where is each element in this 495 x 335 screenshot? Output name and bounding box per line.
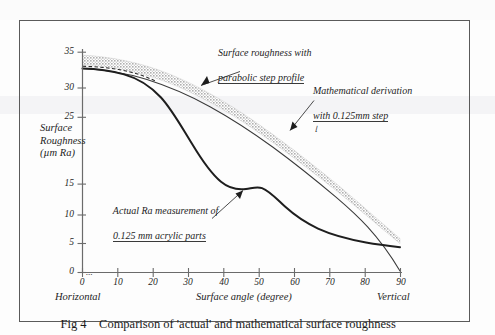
figure-caption: Fig 4 Comparison of 'actual' and mathema… (48, 302, 396, 335)
annotation-parabolic-line2: parabolic step profile (218, 72, 304, 84)
xtick-label-70: 70 (318, 277, 342, 287)
xtick-label-20: 20 (141, 277, 165, 287)
annotation-math-trailing-mark: ⌊ (313, 125, 318, 133)
xtick-label-30: 30 (176, 277, 200, 287)
xtick-label-60: 60 (283, 277, 307, 287)
ytick-label-5: 5 (52, 237, 74, 247)
y-axis-title: SurfaceRoughness(µm Ra) (40, 122, 102, 160)
annotation-actual-line1: Actual Ra measurement of (113, 205, 218, 216)
annotation-math-line1: Mathematical derivation (313, 85, 412, 96)
xtick-label-40: 40 (212, 277, 236, 287)
annotation-actual-line2: 0.125 mm acrylic parts (113, 230, 206, 242)
xtick-label-90: 90 (389, 277, 413, 287)
ytick-label-35: 35 (52, 46, 74, 56)
figure-caption-text: Comparison of 'actual' and mathematical … (99, 317, 396, 331)
ytick-label-15: 15 (52, 178, 74, 188)
xtick-label-10: 10 (106, 277, 130, 287)
annotation-mathematical-derivation: Mathematical derivation with 0.125mm ste… (303, 72, 412, 148)
ytick-label-10: 10 (52, 209, 74, 219)
annotation-parabolic-step-profile: Surface roughness with parabolic step pr… (208, 34, 312, 97)
xtick-label-50: 50 (247, 277, 271, 287)
annotation-actual-ra-measurement: Actual Ra measurement of 0.125 mm acryli… (103, 192, 218, 255)
x-axis-endcap-horizontal: Horizontal (55, 291, 101, 302)
ytick-label-25: 25 (52, 111, 74, 121)
ytick-label-30: 30 (52, 82, 74, 92)
figure-caption-label: Fig 4 (61, 317, 87, 331)
annotation-math-line2: with 0.125mm step (313, 110, 388, 122)
x-axis-endcap-vertical: Vertical (377, 291, 410, 302)
ytick-label-0: 0 (52, 266, 74, 276)
origin-artifact-mark: ••• (86, 272, 93, 277)
annotation-parabolic-line1: Surface roughness with (218, 47, 312, 58)
xtick-label-80: 80 (353, 277, 377, 287)
figure-page: 35 30 25 15 10 5 0 0 10 20 30 40 50 60 7… (0, 0, 495, 335)
xtick-label-0: 0 (70, 277, 94, 287)
